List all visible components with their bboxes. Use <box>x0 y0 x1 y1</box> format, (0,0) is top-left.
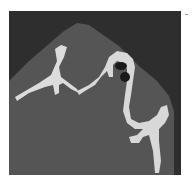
ct-scan-graphic <box>9 11 181 175</box>
soft-tissue-region <box>9 23 174 175</box>
air-cavity-2 <box>120 72 130 82</box>
air-cavity <box>115 62 127 70</box>
corner-mark <box>185 14 188 15</box>
ct-scan-image <box>9 11 181 175</box>
